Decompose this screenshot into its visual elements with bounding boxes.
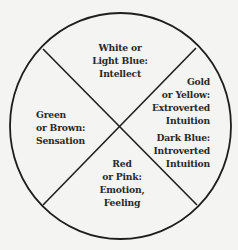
label-line: Sensation	[36, 134, 96, 147]
quadrant-top-intellect: White or Light Blue: Intellect	[88, 41, 152, 80]
label-line: Intuition	[150, 114, 210, 127]
label-line: Green	[36, 108, 96, 121]
label-line: or Brown:	[36, 121, 96, 134]
label-line: Feeling	[94, 196, 150, 209]
label-line: Intuition	[150, 157, 210, 170]
label-line: White or	[88, 41, 152, 54]
label-line: Introverted	[150, 144, 210, 157]
label-line: Dark Blue:	[150, 131, 210, 144]
quadrant-right-extroverted-intuition: Gold or Yellow: Extroverted Intuition	[150, 75, 210, 127]
label-line: or Pink:	[94, 170, 150, 183]
label-line: Gold	[150, 75, 210, 88]
label-line: Red	[94, 157, 150, 170]
label-line: Intellect	[88, 67, 152, 80]
label-line: Light Blue:	[88, 54, 152, 67]
quadrant-bottom-emotion-feeling: Red or Pink: Emotion, Feeling	[94, 157, 150, 209]
label-line: Extroverted	[150, 101, 210, 114]
label-line: Emotion,	[94, 183, 150, 196]
quadrant-left-sensation: Green or Brown: Sensation	[36, 108, 96, 147]
quadrant-right-introverted-intuition: Dark Blue: Introverted Intuition	[150, 131, 210, 170]
label-line: or Yellow:	[150, 88, 210, 101]
